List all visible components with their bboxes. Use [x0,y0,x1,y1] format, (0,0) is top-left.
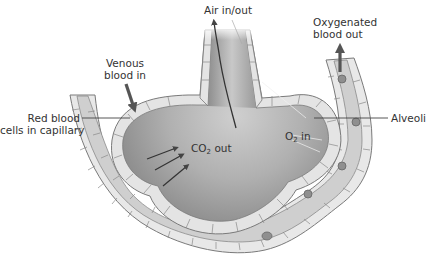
alveoli-text: Alveoli [391,112,426,124]
oxygenated-blood-out-label: Oxygenated blood out [313,16,377,40]
oxygenated-line1: Oxygenated [313,16,377,28]
o2-in-label: O2 in [285,130,311,142]
venous-line1: Venous [98,57,152,69]
oxygenated-line2: blood out [313,28,377,40]
red-blood-cell [352,118,360,126]
red-blood-line1: Red blood [0,112,80,124]
co2-out-label: CO2 out [191,142,232,154]
air-in-out-label: Air in/out [196,4,260,16]
alveoli-label: Alveoli [391,112,426,124]
venous-blood-in-label: Venous blood in [98,57,152,81]
venous-line2: blood in [98,69,152,81]
airway [196,26,266,108]
red-blood-cells-label: Red blood cells in capillary [0,112,80,136]
red-blood-line2: cells in capillary [0,124,80,136]
o2-suffix: in [298,130,311,142]
red-blood-cell [338,75,346,83]
venous-inflow-arrow [126,84,134,108]
co2-suffix: out [211,142,232,154]
air-in-out-text: Air in/out [204,4,252,16]
co2-text: CO [191,142,207,154]
red-blood-cell [338,162,346,170]
red-blood-cell [304,190,312,198]
red-blood-cell [262,232,272,240]
